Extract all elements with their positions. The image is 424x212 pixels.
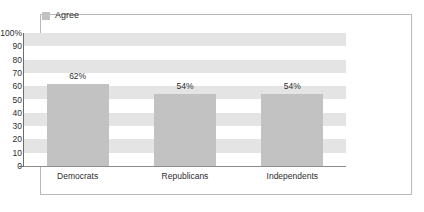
x-axis-baseline	[19, 166, 346, 167]
headline-clipped: DATA: REGARDLESS OF PARTY AFFILIATION	[22, 0, 412, 3]
y-tick-label: 60	[13, 82, 22, 91]
y-tick-label: 40	[13, 109, 22, 118]
y-tick-label: 80	[13, 55, 22, 64]
x-axis-category-labels: DemocratsRepublicansIndependents	[24, 170, 346, 184]
x-label-independents: Independents	[239, 170, 346, 182]
y-tick-label: 20	[13, 135, 22, 144]
bar-slot[interactable]: 54%	[261, 33, 323, 166]
bar-slot[interactable]: 54%	[154, 33, 216, 166]
x-label-democrats: Democrats	[24, 170, 131, 182]
bar-value-label: 62%	[47, 71, 109, 81]
y-tick-label: 90	[13, 42, 22, 51]
plot-wrap: 100%9080706050403020100 62%54%54% Democr…	[24, 33, 346, 166]
y-tick-label: 30	[13, 122, 22, 131]
y-tick-label: 100%	[0, 29, 22, 38]
y-tick-label: 10	[13, 148, 22, 157]
legend-swatch-agree	[42, 12, 50, 20]
x-label-republicans: Republicans	[131, 170, 238, 182]
bar-group: 62%54%54%	[24, 33, 346, 166]
y-axis-tick-labels: 100%9080706050403020100	[0, 33, 22, 166]
legend-label-agree: Agree	[55, 11, 79, 20]
bar-democrats[interactable]	[47, 84, 109, 166]
y-tick-label: 50	[13, 95, 22, 104]
bar-republicans[interactable]	[154, 94, 216, 166]
bar-independents[interactable]	[261, 94, 323, 166]
y-axis-zero-tick	[19, 166, 24, 167]
y-tick-label: 70	[13, 69, 22, 78]
bar-value-label: 54%	[154, 81, 216, 91]
bar-slot[interactable]: 62%	[47, 33, 109, 166]
headline-text: DATA: REGARDLESS OF PARTY AFFILIATION	[22, 0, 412, 3]
bar-value-label: 54%	[261, 81, 323, 91]
chart-legend: Agree	[42, 11, 79, 20]
